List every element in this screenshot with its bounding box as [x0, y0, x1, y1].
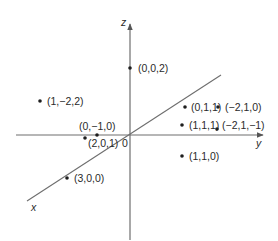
coordinate-diagram: z y x 0 (0,0,2) (1,−2,2) (0,1,1) (−2,1,0…: [0, 0, 278, 241]
z-axis-label: z: [120, 16, 127, 28]
point-2-0-1: (2,0,1): [83, 136, 118, 149]
point-1-1-1: (1,1,1): [180, 119, 219, 131]
point-0-neg1-0: (0,−1,0): [79, 120, 115, 137]
origin-label: 0: [122, 137, 128, 149]
point-label: (−2,1,0): [225, 101, 261, 113]
point-1-1-0: (1,1,0): [180, 150, 219, 162]
point-neg2-1-0: (−2,1,0): [216, 101, 261, 113]
point-0-0-2: (0,0,2): [128, 62, 168, 74]
point-label: (−2,1,−1): [222, 119, 265, 131]
point-label: (1,1,0): [189, 150, 219, 162]
point-0-1-1: (0,1,1): [183, 101, 221, 113]
x-axis-label: x: [30, 201, 37, 213]
point-neg2-1-neg1: (−2,1,−1): [215, 119, 264, 131]
point-label: (0,−1,0): [79, 120, 115, 132]
point-label: (3,0,0): [74, 172, 104, 184]
point-label: (1,−2,2): [47, 95, 83, 107]
point-label: (2,0,1): [88, 137, 118, 149]
point-3-0-0: (3,0,0): [65, 172, 104, 184]
point-label: (1,1,1): [189, 119, 219, 131]
y-axis-label: y: [255, 137, 262, 149]
point-label: (0,0,2): [138, 62, 168, 74]
point-1-neg2-2: (1,−2,2): [38, 95, 83, 107]
